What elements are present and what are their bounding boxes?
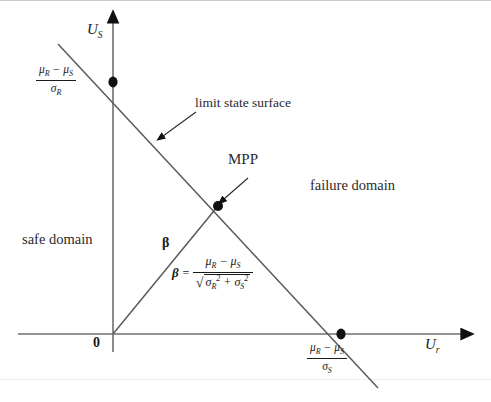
failure-domain-label: failure domain	[310, 178, 395, 193]
y-intercept-numerator: μR − μS	[36, 63, 76, 81]
radicand: σR2 + σS2	[204, 274, 250, 292]
mpp-pointer	[224, 178, 248, 199]
x-intercept-fraction: μR − μS σS	[307, 341, 347, 375]
x-intercept-denominator: σS	[307, 359, 347, 376]
beta-equation: β = μR − μS √σR2 + σS2	[172, 255, 253, 292]
beta-equation-lhs-group: β =	[172, 266, 190, 280]
y-axis-label-letter: U	[87, 21, 98, 37]
sigma-s-superscript: 2	[244, 274, 248, 283]
y-intercept-denominator: σR	[36, 81, 76, 98]
x-axis-label: Ur	[425, 337, 440, 356]
mu-r-subscript: R	[316, 347, 321, 356]
sigma-s-subscript: S	[240, 282, 244, 291]
y-intercept-value: μR − μS σR	[36, 63, 76, 97]
limit-state-surface-pointer	[163, 112, 196, 136]
beta-equation-equals: =	[182, 266, 190, 280]
figure-container: US Ur 0 μR − μS σR μR − μS σS limit stat…	[0, 0, 491, 402]
mu-s-subscript: S	[237, 261, 241, 270]
x-intercept-numerator: μR − μS	[307, 341, 347, 359]
x-intercept-value: μR − μS σS	[307, 341, 347, 375]
minus-symbol: −	[219, 254, 227, 268]
diagram-canvas	[0, 0, 491, 402]
mu-r-subscript: R	[45, 69, 50, 78]
mu-s-subscript: S	[340, 347, 344, 356]
beta-equation-denominator: √σR2 + σS2	[193, 273, 254, 292]
minus-symbol: −	[53, 63, 61, 75]
radical-sign: √	[196, 276, 204, 291]
x-axis-label-subscript: r	[436, 345, 440, 355]
minus-symbol: −	[324, 341, 332, 353]
beta-equation-numerator: μR − μS	[193, 255, 254, 273]
beta-symbol-label: β	[162, 236, 169, 251]
limit-state-surface-label: limit state surface	[195, 96, 291, 110]
plus-symbol: +	[223, 275, 231, 289]
mu-r-subscript: R	[212, 261, 217, 270]
sigma-r-superscript: 2	[216, 274, 220, 283]
sigma-r-subscript: R	[211, 282, 216, 291]
safe-domain-label: safe domain	[22, 232, 92, 247]
x-axis-label-letter: U	[425, 336, 436, 352]
y-axis-label: US	[87, 22, 103, 41]
y-axis-label-subscript: S	[98, 30, 103, 40]
mpp-marker	[213, 201, 223, 211]
beta-equation-lhs: β	[172, 265, 179, 280]
sigma-subscript: S	[328, 366, 332, 375]
x-intercept-marker	[336, 329, 345, 340]
y-intercept-fraction: μR − μS σR	[36, 63, 76, 97]
sigma-subscript: R	[56, 88, 61, 97]
mpp-label: MPP	[228, 152, 258, 168]
mu-s-subscript: S	[69, 69, 73, 78]
y-intercept-marker	[108, 77, 117, 88]
beta-equation-fraction: μR − μS √σR2 + σS2	[193, 255, 254, 292]
origin-label: 0	[93, 336, 100, 351]
